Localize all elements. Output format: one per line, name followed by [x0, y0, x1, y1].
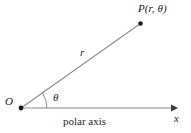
- radius-label: r: [80, 47, 84, 58]
- origin-point-dot: [19, 106, 24, 111]
- polar-coordinate-diagram: P(r, θ) r θ O x polar axis: [0, 0, 191, 133]
- point-p-label: P(r, θ): [138, 3, 167, 14]
- x-axis-label: x: [174, 113, 179, 124]
- polar-axis-caption: polar axis: [63, 116, 106, 127]
- theta-angle-arc: [42, 93, 47, 108]
- diagram-canvas: [0, 0, 191, 133]
- radius-line: [21, 24, 141, 109]
- x-axis-line: [21, 104, 178, 111]
- theta-label: θ: [53, 92, 58, 103]
- origin-label: O: [5, 96, 13, 107]
- point-p-dot: [138, 21, 142, 25]
- x-axis-arrowhead: [171, 104, 178, 111]
